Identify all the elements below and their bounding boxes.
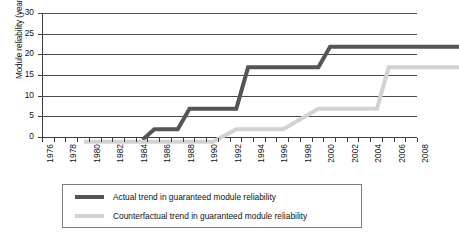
x-tick-mark — [101, 138, 102, 142]
x-tick-mark — [382, 138, 383, 142]
plot-area — [42, 13, 417, 137]
x-tick-label: 1978 — [69, 144, 78, 163]
y-tick-label: 0 — [8, 132, 34, 141]
x-tick-mark — [288, 138, 289, 142]
y-tick-label: 20 — [8, 49, 34, 58]
y-tick-label: 10 — [8, 91, 34, 100]
y-tick-mark — [38, 34, 42, 35]
legend-item-counterfactual: Counterfactual trend in guaranteed modul… — [63, 209, 361, 223]
chart-legend: Actual trend in guaranteed module reliab… — [62, 184, 362, 228]
legend-swatch-counterfactual — [75, 214, 104, 218]
y-tick-mark — [38, 96, 42, 97]
x-tick-label: 1992 — [234, 144, 243, 163]
x-tick-label: 1980 — [93, 144, 102, 163]
x-tick-mark — [335, 138, 336, 142]
x-tick-label: 2006 — [398, 144, 407, 163]
series-group — [84, 26, 459, 150]
legend-label-actual: Actual trend in guaranteed module reliab… — [113, 192, 276, 202]
x-tick-mark — [77, 138, 78, 142]
legend-swatch-actual — [75, 195, 104, 199]
x-tick-mark — [159, 138, 160, 142]
x-tick-label: 2002 — [351, 144, 360, 163]
x-tick-label: 2000 — [327, 144, 336, 163]
x-tick-label: 2004 — [374, 144, 383, 163]
legend-item-actual: Actual trend in guaranteed module reliab… — [63, 190, 361, 204]
x-tick-label: 1994 — [257, 144, 266, 163]
x-tick-label: 1984 — [140, 144, 149, 163]
x-tick-mark — [147, 138, 148, 142]
x-tick-mark — [171, 138, 172, 142]
x-tick-label: 1986 — [163, 144, 172, 163]
x-tick-mark — [265, 138, 266, 142]
x-tick-label: 1982 — [116, 144, 125, 163]
x-tick-label: 1998 — [304, 144, 313, 163]
x-tick-mark — [312, 138, 313, 142]
x-tick-mark — [42, 138, 43, 142]
x-tick-mark — [417, 138, 418, 142]
x-tick-mark — [300, 138, 301, 142]
x-tick-label: 1996 — [280, 144, 289, 163]
x-tick-mark — [241, 138, 242, 142]
x-tick-mark — [276, 138, 277, 142]
x-tick-mark — [112, 138, 113, 142]
x-tick-mark — [54, 138, 55, 142]
legend-label-counterfactual: Counterfactual trend in guaranteed modul… — [113, 211, 307, 221]
x-tick-mark — [405, 138, 406, 142]
y-tick-mark — [38, 13, 42, 14]
y-tick-mark — [38, 75, 42, 76]
y-tick-label: 5 — [8, 111, 34, 120]
y-tick-mark — [38, 116, 42, 117]
x-tick-mark — [347, 138, 348, 142]
x-tick-label: 1988 — [187, 144, 196, 163]
x-tick-label: 2008 — [421, 144, 430, 163]
x-tick-mark — [370, 138, 371, 142]
x-tick-mark — [230, 138, 231, 142]
x-tick-mark — [124, 138, 125, 142]
x-tick-mark — [206, 138, 207, 142]
x-tick-label: 1976 — [46, 144, 55, 163]
x-tick-mark — [194, 138, 195, 142]
x-tick-mark — [65, 138, 66, 142]
x-tick-mark — [253, 138, 254, 142]
x-tick-mark — [136, 138, 137, 142]
x-tick-mark — [183, 138, 184, 142]
x-tick-mark — [89, 138, 90, 142]
y-tick-label: 15 — [8, 70, 34, 79]
x-tick-mark — [394, 138, 395, 142]
series-line-actual — [143, 47, 459, 140]
x-tick-mark — [218, 138, 219, 142]
y-tick-label: 30 — [8, 8, 34, 17]
gridline — [42, 13, 417, 14]
x-tick-mark — [323, 138, 324, 142]
x-tick-mark — [358, 138, 359, 142]
y-tick-mark — [38, 54, 42, 55]
x-tick-label: 1990 — [210, 144, 219, 163]
series-line-counterfactual — [84, 67, 459, 141]
y-tick-label: 25 — [8, 29, 34, 38]
